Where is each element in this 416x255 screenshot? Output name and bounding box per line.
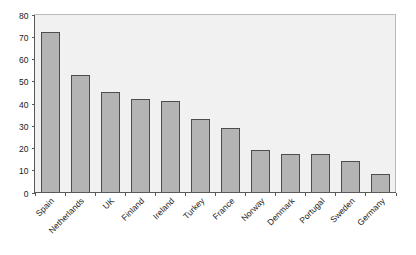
bar-ireland (162, 102, 180, 193)
x-axis-labels: SpainNetherlandsUKFinlandIrelandTurkeyFr… (34, 195, 388, 235)
x-axis-label-turkey: Turkey (181, 195, 207, 221)
bar-denmark (282, 155, 300, 193)
y-axis-tick-label: 20 (19, 144, 29, 154)
x-axis-label-sweden: Sweden (328, 196, 357, 225)
y-axis-tick-label: 50 (19, 77, 29, 87)
x-axis-label-portugal: Portugal (297, 196, 327, 226)
y-axis-tick-label: 10 (19, 166, 29, 176)
bar-germany (372, 175, 390, 193)
x-axis-label-finland: Finland (119, 196, 146, 223)
x-axis-label-norway: Norway (239, 195, 267, 223)
bar-norway (252, 151, 270, 193)
bar-france (222, 129, 240, 193)
y-axis-tick-label: 80 (19, 11, 29, 21)
bar-chart: 01020304050607080 SpainNetherlandsUKFinl… (0, 0, 416, 255)
bar-finland (132, 100, 150, 193)
y-axis-tick-label: 30 (19, 122, 29, 132)
x-axis-label-ireland: Ireland (151, 196, 177, 222)
y-axis-ticks: 01020304050607080 (19, 11, 34, 199)
bar-portugal (312, 155, 330, 193)
x-axis-label-denmark: Denmark (265, 195, 297, 227)
bar-sweden (342, 162, 360, 193)
bar-netherlands (72, 76, 90, 193)
y-axis-tick-label: 40 (19, 100, 29, 110)
x-axis-label-france: France (211, 196, 237, 222)
bar-turkey (192, 120, 210, 193)
x-axis-label-germany: Germany (355, 195, 387, 227)
bar-spain (42, 33, 60, 193)
y-axis-tick-label: 0 (24, 189, 29, 199)
chart-canvas: 01020304050607080 SpainNetherlandsUKFinl… (0, 0, 416, 255)
x-axis-label-uk: UK (101, 196, 117, 212)
x-axis-label-spain: Spain (34, 196, 57, 219)
bar-uk (102, 93, 120, 193)
y-axis-tick-label: 60 (19, 55, 29, 65)
y-axis-tick-label: 70 (19, 33, 29, 43)
